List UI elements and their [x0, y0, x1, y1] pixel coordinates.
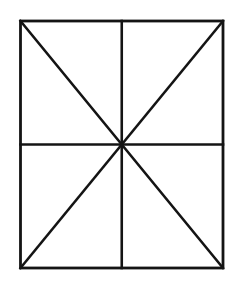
divided-rectangle-figure: Rectangle divided by midlines and diagon…	[0, 0, 241, 283]
